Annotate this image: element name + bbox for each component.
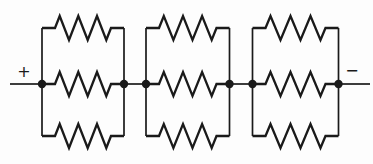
junction-dot (225, 80, 233, 88)
resistor (146, 72, 230, 96)
negative-terminal-label: − (343, 64, 361, 78)
resistor (42, 72, 124, 96)
resistor (253, 16, 339, 40)
junction-dot (38, 80, 46, 88)
junction-dot (248, 80, 256, 88)
junction-dot (142, 80, 150, 88)
resistor (42, 124, 124, 148)
resistor (146, 124, 230, 148)
resistor (146, 16, 230, 40)
positive-terminal-label: + (15, 65, 33, 79)
circuit-diagram: + − (0, 0, 373, 164)
resistor (42, 16, 124, 40)
junction-dot (120, 80, 128, 88)
junction-dot (334, 80, 342, 88)
circuit-canvas (0, 0, 373, 164)
resistor (253, 124, 339, 148)
resistor (253, 72, 339, 96)
